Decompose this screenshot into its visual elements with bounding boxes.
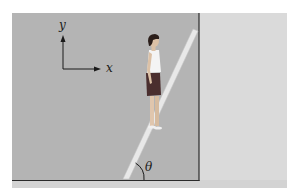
ladder-diagram: y x θ — [0, 0, 298, 194]
x-axis-label: x — [106, 62, 113, 74]
room-panel — [12, 13, 199, 180]
y-axis-label: y — [59, 19, 66, 31]
outside-region — [199, 13, 287, 188]
theta-label: θ — [145, 161, 152, 173]
floor-strip — [12, 180, 287, 188]
